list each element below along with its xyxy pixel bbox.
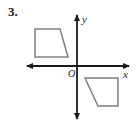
origin-label: O xyxy=(68,68,75,79)
y-axis-label: y xyxy=(81,13,87,25)
geometry-figure: 3. O y x xyxy=(0,0,139,128)
trapezoid-lower-right xyxy=(85,78,118,106)
x-axis-label: x xyxy=(122,68,128,80)
trapezoid-upper-left xyxy=(35,29,68,57)
coordinate-plane: O y x xyxy=(0,0,139,128)
